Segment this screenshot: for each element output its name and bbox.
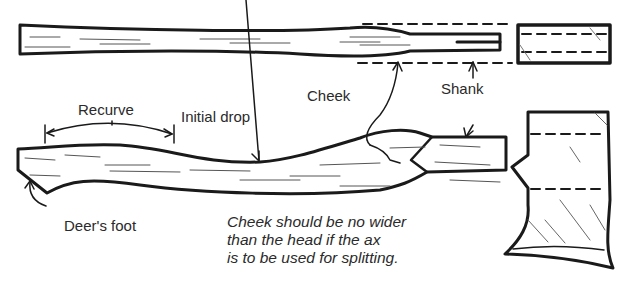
label-cheek: Cheek xyxy=(307,87,350,104)
head-side-view xyxy=(505,112,613,268)
label-initial-drop: Initial drop xyxy=(181,108,250,125)
head-top-view xyxy=(518,25,610,63)
ax-handle-diagram: Recurve Initial drop Cheek Shank Deer's … xyxy=(0,0,621,288)
label-recurve: Recurve xyxy=(78,101,134,118)
splitting-note: Cheek should be no wider than the head i… xyxy=(227,213,406,267)
note-line: than the head if the ax xyxy=(227,231,406,249)
note-line: Cheek should be no wider xyxy=(227,213,406,231)
note-line: is to be used for splitting. xyxy=(227,249,406,267)
handle-top-view xyxy=(20,24,512,63)
label-deers-foot: Deer's foot xyxy=(64,217,136,234)
label-shank: Shank xyxy=(441,80,484,97)
